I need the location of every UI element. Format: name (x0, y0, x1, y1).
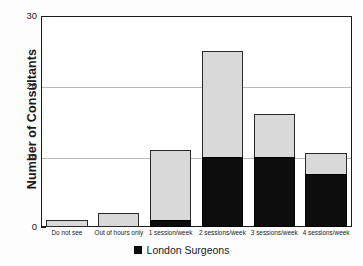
bar-segment-total[interactable] (46, 220, 87, 227)
x-tick-label-3: 2 sessions/week (197, 229, 249, 237)
bar-group[interactable] (98, 16, 139, 227)
bar-group[interactable] (254, 16, 295, 227)
bars-layer (41, 16, 352, 227)
y-tick-label-30: 30 (9, 11, 37, 21)
x-tick-label-0: Do not see (41, 229, 93, 237)
y-tick-label-0: 0 (9, 222, 37, 232)
bar-group[interactable] (305, 16, 346, 227)
x-tick-label-2: 1 session/week (145, 229, 197, 237)
y-tick-label-10: 10 (9, 152, 37, 162)
x-tick-label-4: 3 sessions/week (248, 229, 300, 237)
bar-group[interactable] (46, 16, 87, 227)
chart-container: Number of Consultants 0102030 Do not see… (0, 0, 363, 266)
bar-segment-london-surgeons[interactable] (305, 174, 346, 227)
bar-segment-total[interactable] (98, 213, 139, 227)
bar-segment-total[interactable] (150, 150, 191, 227)
y-tick-label-20: 20 (9, 81, 37, 91)
legend-label-london-surgeons: London Surgeons (147, 245, 230, 256)
chart-legend: London Surgeons (0, 245, 363, 256)
legend-swatch-london-surgeons (134, 246, 142, 254)
bar-segment-london-surgeons[interactable] (150, 220, 191, 227)
bar-group[interactable] (150, 16, 191, 227)
bar-segment-london-surgeons[interactable] (202, 157, 243, 227)
x-tick-label-1: Out of hours only (93, 229, 145, 237)
bar-group[interactable] (202, 16, 243, 227)
y-axis-title: Number of Consultants (25, 24, 39, 214)
x-tick-label-5: 4 sessions/week (300, 229, 352, 237)
bar-segment-london-surgeons[interactable] (254, 157, 295, 227)
